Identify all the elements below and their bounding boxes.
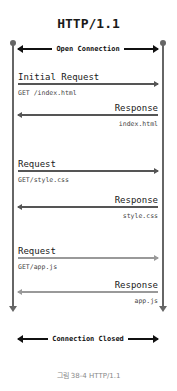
arrow-right-icon bbox=[18, 83, 158, 85]
message-detail: app.js bbox=[18, 297, 158, 305]
connection-closed-banner: Connection Closed bbox=[18, 333, 158, 345]
server-lifeline-arrow-icon bbox=[159, 306, 167, 312]
figure-caption: 그림 38-4 HTTP/1.1 bbox=[0, 370, 177, 380]
message-label: Response bbox=[18, 103, 158, 113]
server-lifeline bbox=[162, 42, 164, 308]
message-detail: GET/style.css bbox=[18, 176, 158, 184]
double-arrow-right-icon bbox=[124, 48, 158, 50]
double-arrow-left-icon bbox=[18, 338, 48, 340]
message-detail: GET /index.html bbox=[18, 89, 158, 97]
request-message-3: Request GET/app.js bbox=[18, 246, 158, 271]
message-detail: index.html bbox=[18, 120, 158, 128]
arrow-left-icon bbox=[18, 291, 158, 293]
initial-request-message: Initial Request GET /index.html bbox=[18, 72, 158, 97]
client-lifeline bbox=[12, 42, 14, 308]
message-label: Initial Request bbox=[18, 72, 158, 82]
message-label: Request bbox=[18, 246, 158, 256]
arrow-right-icon bbox=[18, 257, 158, 259]
arrow-left-icon bbox=[18, 114, 158, 116]
message-label: Response bbox=[18, 195, 158, 205]
arrow-left-icon bbox=[18, 206, 158, 208]
message-label: Response bbox=[18, 280, 158, 290]
double-arrow-left-icon bbox=[18, 48, 52, 50]
diagram-title: HTTP/1.1 bbox=[0, 16, 177, 31]
arrow-right-icon bbox=[18, 170, 158, 172]
open-connection-banner: Open Connection bbox=[18, 43, 158, 55]
double-arrow-right-icon bbox=[128, 338, 158, 340]
message-label: Request bbox=[18, 159, 158, 169]
message-detail: style.css bbox=[18, 212, 158, 220]
client-lifeline-arrow-icon bbox=[9, 306, 17, 312]
open-connection-label: Open Connection bbox=[52, 45, 123, 53]
message-detail: GET/app.js bbox=[18, 263, 158, 271]
response-message-2: Response style.css bbox=[18, 195, 158, 220]
request-message-2: Request GET/style.css bbox=[18, 159, 158, 184]
connection-closed-label: Connection Closed bbox=[48, 335, 128, 343]
response-message-1: Response index.html bbox=[18, 103, 158, 128]
response-message-3: Response app.js bbox=[18, 280, 158, 305]
